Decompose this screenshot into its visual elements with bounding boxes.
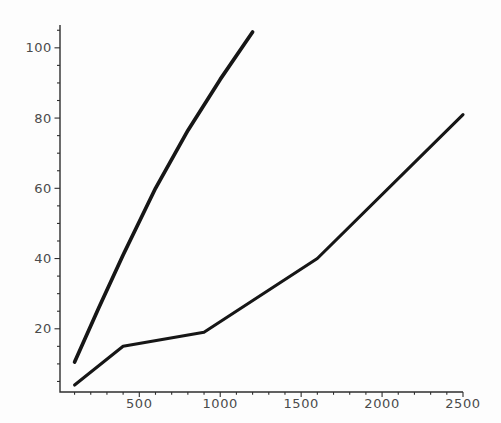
y-tick-label: 100 bbox=[25, 40, 52, 55]
x-tick-label: 500 bbox=[126, 396, 153, 411]
x-tick-label: 2000 bbox=[364, 396, 399, 411]
x-tick-label: 1000 bbox=[202, 396, 237, 411]
y-tick-label: 40 bbox=[34, 251, 52, 266]
line-chart: 500100015002000250020406080100 bbox=[0, 0, 501, 423]
y-tick-label: 60 bbox=[34, 181, 52, 196]
x-tick-label: 2500 bbox=[445, 396, 480, 411]
plot-canvas: 500100015002000250020406080100 bbox=[0, 0, 501, 423]
y-tick-label: 80 bbox=[34, 111, 52, 126]
x-tick-label: 1500 bbox=[283, 396, 318, 411]
y-tick-label: 20 bbox=[34, 321, 52, 336]
